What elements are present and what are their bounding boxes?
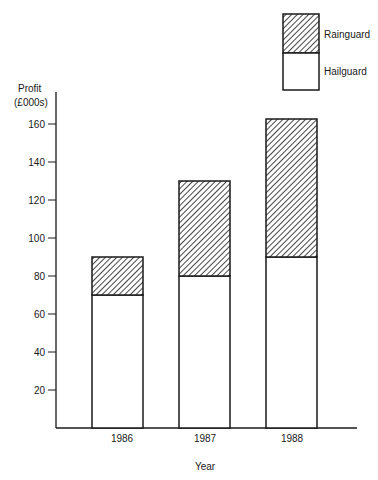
x-tick-label: 1987 [194, 433, 217, 444]
bar-segment-rainguard [179, 181, 230, 276]
bar-segment-hailguard [266, 257, 317, 428]
y-axis-unit: (£000s) [14, 97, 48, 108]
legend-swatch-rainguard [283, 14, 319, 53]
legend: Rainguard Hailguard [283, 14, 370, 90]
y-tick-label: 20 [34, 385, 46, 396]
y-axis-label: Profit [18, 83, 42, 94]
y-ticks: 20 40 60 80 100 120 140 160 [28, 119, 56, 396]
y-tick-label: 40 [34, 347, 46, 358]
y-tick-label: 80 [34, 271, 46, 282]
legend-swatch-hailguard [283, 53, 319, 90]
y-tick-label: 60 [34, 309, 46, 320]
y-tick-label: 160 [28, 119, 45, 130]
chart: Rainguard Hailguard Profit (£000s) 20 40… [0, 0, 378, 480]
legend-label-hailguard: Hailguard [324, 66, 367, 77]
bar-1986 [92, 257, 143, 428]
bar-1988 [266, 119, 317, 428]
y-tick-label: 100 [28, 233, 45, 244]
bar-segment-rainguard [266, 119, 317, 257]
x-tick-label: 1986 [111, 433, 134, 444]
y-tick-label: 120 [28, 195, 45, 206]
y-tick-label: 140 [28, 157, 45, 168]
bar-segment-rainguard [92, 257, 143, 295]
legend-label-rainguard: Rainguard [324, 29, 370, 40]
x-tick-label: 1988 [281, 433, 304, 444]
x-axis-label: Year [195, 461, 216, 472]
bar-1987 [179, 181, 230, 428]
bar-segment-hailguard [179, 276, 230, 428]
bar-segment-hailguard [92, 295, 143, 428]
